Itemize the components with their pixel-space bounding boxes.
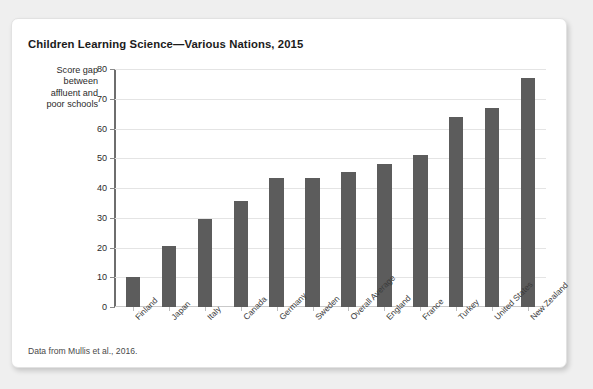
bar-slot xyxy=(510,69,546,307)
y-axis-tick-label: 50 xyxy=(97,153,107,163)
x-axis-labels: FinlandJapanItalyCanadaGermanySwedenOver… xyxy=(115,309,546,369)
bar xyxy=(305,178,319,307)
y-axis-tick-label: 30 xyxy=(97,213,107,223)
bar xyxy=(269,178,283,307)
y-axis-caption-line-2: between xyxy=(18,76,98,87)
y-axis-caption: Score gap between affluent and poor scho… xyxy=(18,65,98,110)
bar-slot xyxy=(187,69,223,307)
bar-slot xyxy=(151,69,187,307)
x-axis-label-slot: France xyxy=(402,309,438,369)
bar-series xyxy=(115,69,546,307)
bar xyxy=(126,277,140,307)
plot-area: 01020304050607080 xyxy=(115,69,546,307)
x-axis-label-slot: United States xyxy=(474,309,510,369)
y-axis-caption-line-4: poor schools xyxy=(18,99,98,110)
bar-slot xyxy=(331,69,367,307)
x-axis-label-slot: Italy xyxy=(187,309,223,369)
x-axis-label-slot: Germany xyxy=(259,309,295,369)
y-axis-tick-label: 60 xyxy=(97,124,107,134)
y-axis-tick-label: 0 xyxy=(102,302,107,312)
figure-page: Children Learning Science—Various Nation… xyxy=(0,0,593,389)
x-axis-label-slot: Japan xyxy=(151,309,187,369)
y-axis-tick-label: 80 xyxy=(97,64,107,74)
bar-slot xyxy=(295,69,331,307)
bar-slot xyxy=(474,69,510,307)
bar-slot xyxy=(438,69,474,307)
bar xyxy=(449,117,463,307)
x-axis-label-slot: Finland xyxy=(115,309,151,369)
y-axis-caption-line-3: affluent and xyxy=(18,88,98,99)
bar-slot xyxy=(402,69,438,307)
y-axis-tick xyxy=(110,307,115,308)
bar-slot xyxy=(259,69,295,307)
bar xyxy=(198,219,212,307)
x-axis-label-slot: England xyxy=(366,309,402,369)
x-axis-label-slot: New Zealand xyxy=(510,309,546,369)
x-axis-label-slot: Canada xyxy=(223,309,259,369)
page-title: Children Learning Science—Various Nation… xyxy=(28,38,303,50)
source-note: Data from Mullis et al., 2016. xyxy=(28,346,137,356)
bar xyxy=(413,155,427,307)
bar xyxy=(521,78,535,307)
x-axis-label-slot: Sweden xyxy=(295,309,331,369)
x-axis-label-slot: Overall Average xyxy=(331,309,367,369)
y-axis-tick-label: 70 xyxy=(97,94,107,104)
bar-slot xyxy=(366,69,402,307)
y-axis-caption-line-1: Score gap xyxy=(18,65,98,76)
figure-card: Children Learning Science—Various Nation… xyxy=(11,18,567,368)
bar xyxy=(234,201,248,307)
y-axis-tick-label: 20 xyxy=(97,243,107,253)
y-axis-tick-label: 40 xyxy=(97,183,107,193)
x-axis-label-slot: Turkey xyxy=(438,309,474,369)
bar-slot xyxy=(115,69,151,307)
bar xyxy=(485,108,499,307)
bar xyxy=(162,246,176,307)
y-axis-tick-label: 10 xyxy=(97,272,107,282)
bar-slot xyxy=(223,69,259,307)
bar xyxy=(341,172,355,307)
